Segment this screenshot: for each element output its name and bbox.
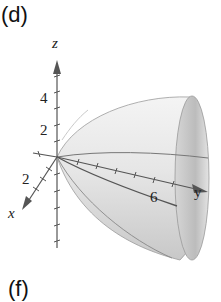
y-axis-label: y bbox=[194, 184, 202, 200]
z-axis-lower bbox=[54, 157, 60, 248]
z-axis bbox=[53, 60, 61, 157]
z-tick-2: 2 bbox=[40, 122, 48, 138]
x-tick-2: 2 bbox=[22, 171, 30, 187]
panel-label-f: (f) bbox=[8, 276, 29, 302]
z-tick-4: 4 bbox=[40, 90, 48, 106]
y-tick-6: 6 bbox=[150, 189, 158, 205]
z-axis-label: z bbox=[51, 35, 58, 51]
paraboloid-opening bbox=[175, 96, 209, 260]
x-axis-label: x bbox=[7, 205, 15, 221]
